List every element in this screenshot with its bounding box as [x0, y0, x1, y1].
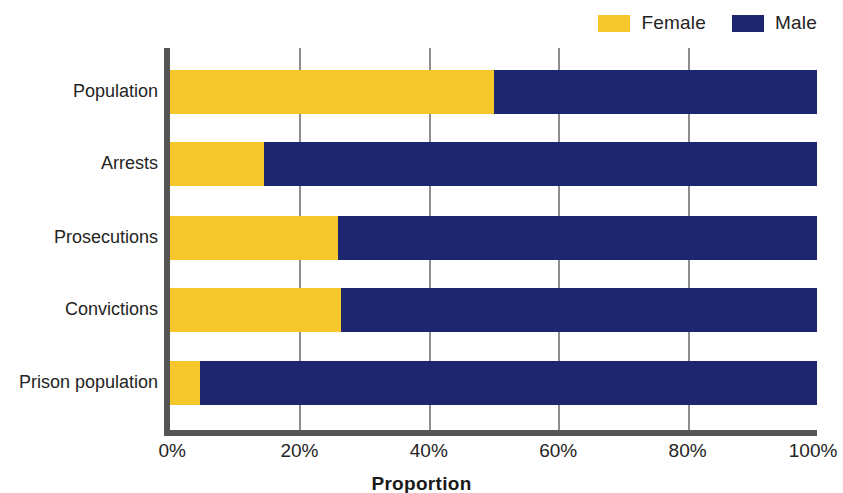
x-tick-label-20: 20% [280, 440, 318, 462]
category-label-prosecutions: Prosecutions [0, 227, 158, 248]
bar-segment-male [264, 142, 817, 186]
bar-segment-male [494, 70, 818, 114]
category-label-arrests: Arrests [0, 153, 158, 174]
category-label-population: Population [0, 81, 158, 102]
bar-segment-female [170, 361, 200, 405]
x-tick-label-40: 40% [410, 440, 448, 462]
y-axis-category-labels: PopulationArrestsProsecutionsConvictions… [0, 48, 158, 430]
x-tick-label-0: 0% [158, 440, 185, 462]
x-tick-label-80: 80% [669, 440, 707, 462]
bar-segment-female [170, 216, 338, 260]
stacked-bar-chart: Female Male PopulationArrestsProsecution… [0, 0, 843, 493]
bar-row [170, 361, 817, 405]
bar-segment-female [170, 70, 494, 114]
bar-segment-male [200, 361, 817, 405]
bar-row [170, 288, 817, 332]
x-axis-line [164, 430, 817, 436]
legend-label-male: Male [775, 12, 817, 34]
bar-segment-male [338, 216, 817, 260]
legend-entry-male: Male [732, 12, 817, 34]
legend-entry-female: Female [598, 12, 706, 34]
chart-legend: Female Male [0, 8, 843, 38]
x-tick-label-100: 100% [789, 440, 838, 462]
bar-row [170, 142, 817, 186]
bar-segment-female [170, 288, 341, 332]
bar-segment-male [341, 288, 817, 332]
category-label-convictions: Convictions [0, 299, 158, 320]
x-tick-label-60: 60% [539, 440, 577, 462]
bar-row [170, 70, 817, 114]
legend-label-female: Female [641, 12, 706, 34]
bar-segment-female [170, 142, 264, 186]
legend-swatch-female-icon [598, 15, 630, 32]
bar-row [170, 216, 817, 260]
category-label-prison-population: Prison population [0, 372, 158, 393]
x-axis-title: Proportion [0, 473, 843, 493]
legend-swatch-male-icon [732, 15, 764, 32]
plot-area [170, 48, 817, 430]
